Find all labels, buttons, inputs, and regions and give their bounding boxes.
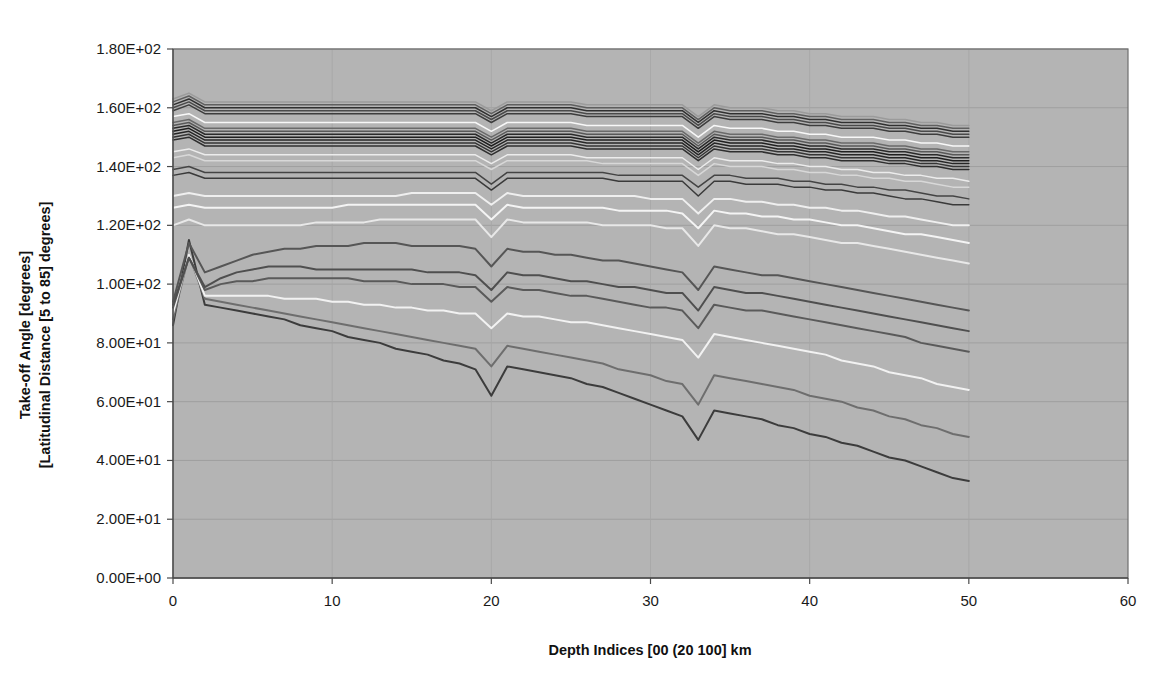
- x-tick-label: 30: [642, 592, 659, 609]
- y-tick-label: 4.00E+01: [96, 451, 161, 468]
- y-axis-title-line2: [Latitudinal Distance [5 to 85] degrees]: [37, 201, 53, 468]
- chart-figure: 0102030405060 0.00E+002.00E+014.00E+016.…: [0, 0, 1172, 681]
- y-tick-label: 2.00E+01: [96, 510, 161, 527]
- y-tick-label: 1.60E+02: [96, 99, 161, 116]
- y-tick-label: 1.00E+02: [96, 275, 161, 292]
- y-tick-label: 1.20E+02: [96, 216, 161, 233]
- y-axis-title-line1: Take-off Angle [degrees]: [17, 251, 33, 420]
- x-tick-label: 20: [483, 592, 500, 609]
- x-axis-title: Depth Indices [00 (20 100] km: [548, 642, 751, 658]
- y-tick-label: 1.80E+02: [96, 40, 161, 57]
- x-tick-label: 40: [801, 592, 818, 609]
- x-tick-label: 10: [324, 592, 341, 609]
- y-tick-label: 1.40E+02: [96, 158, 161, 175]
- y-tick-label: 0.00E+00: [96, 569, 161, 586]
- y-tick-label: 8.00E+01: [96, 334, 161, 351]
- x-tick-label: 60: [1120, 592, 1137, 609]
- x-tick-label: 50: [960, 592, 977, 609]
- y-tick-label: 6.00E+01: [96, 393, 161, 410]
- x-tick-label: 0: [169, 592, 177, 609]
